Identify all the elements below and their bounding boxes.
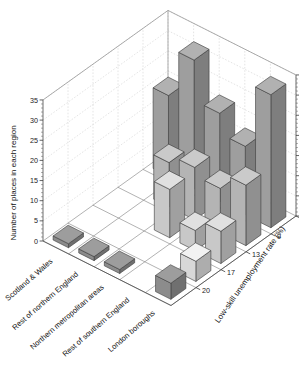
category-label-2: Northern metropolitan areas	[28, 282, 105, 351]
bar-face-front	[154, 182, 169, 238]
bar-side-right	[246, 174, 261, 245]
bar-4-20	[156, 265, 186, 300]
depth-tick-17	[221, 270, 225, 272]
category-label-3: Rest of southern England	[61, 296, 132, 359]
left-tick-label-35: 35	[30, 96, 38, 105]
category-label-1: Rest of northern England	[10, 270, 80, 332]
left-tick-label-10: 10	[30, 196, 38, 205]
left-tick-label-30: 30	[30, 116, 38, 125]
chart-container: 051015202530350510152025303549131720Scot…	[0, 0, 299, 366]
left-tick-label-5: 5	[34, 216, 38, 225]
depth-tick-label-20: 20	[202, 286, 210, 295]
left-wall	[43, 10, 168, 241]
bar-side-right	[271, 84, 286, 228]
left-tick-label-15: 15	[30, 176, 38, 185]
left-tick-label-20: 20	[30, 156, 38, 165]
bar-chart-3d: 051015202530350510152025303549131720Scot…	[0, 0, 299, 366]
depth-tick-13	[246, 252, 250, 254]
left-tick-label-25: 25	[30, 136, 38, 145]
depth-tick-label-17: 17	[227, 268, 235, 277]
depth-tick-20	[196, 288, 200, 290]
left-axis-title: Number of places in each region	[9, 125, 18, 240]
left-tick-label-0: 0	[34, 237, 38, 246]
